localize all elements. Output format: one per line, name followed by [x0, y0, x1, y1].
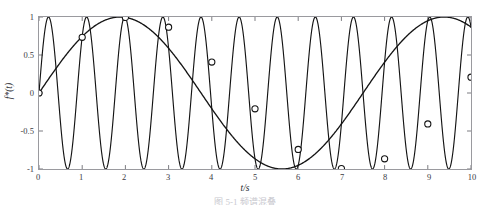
- figure-caption: 图 5-1 频谱混叠: [0, 197, 490, 205]
- y-tick-label: 1: [8, 12, 34, 22]
- x-tick-label: 4: [201, 172, 221, 182]
- y-tick-label: 0.5: [8, 50, 34, 60]
- x-tick-label: 7: [332, 172, 352, 182]
- x-tick-label: 0: [28, 172, 48, 182]
- top-clipped-text: [0, 0, 490, 7]
- x-axis-label: t/s: [0, 183, 490, 193]
- x-tick-label: 2: [114, 172, 134, 182]
- y-tick-label: 0: [8, 88, 34, 98]
- x-tick-label: 3: [158, 172, 178, 182]
- x-tick-label: 6: [288, 172, 308, 182]
- x-tick-label: 9: [419, 172, 439, 182]
- x-tick-label: 8: [375, 172, 395, 182]
- plot-area: [38, 16, 472, 170]
- x-tick-label: 10: [461, 172, 483, 182]
- aliasing-figure: f*(t) 1 0.5 0 -0.5 -1 0 1 2 3 4 5 6 7 8 …: [0, 0, 490, 205]
- plot-canvas: [39, 17, 471, 169]
- x-tick-label: 1: [71, 172, 91, 182]
- original-signal-curve: [39, 17, 471, 169]
- y-tick-label: -0.5: [6, 126, 34, 136]
- x-tick-label: 5: [245, 172, 265, 182]
